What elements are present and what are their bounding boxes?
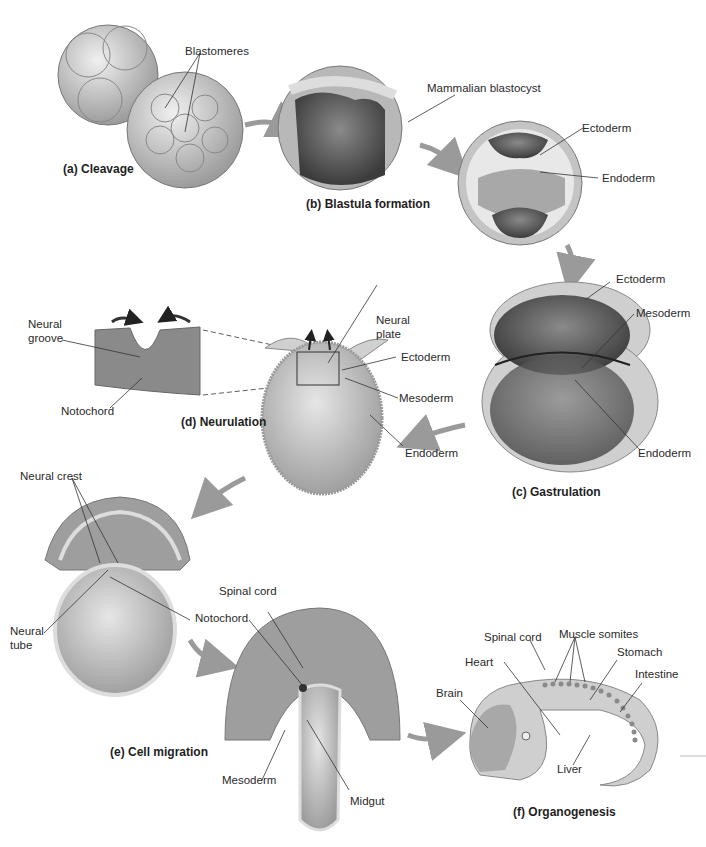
label-mammalian-blastocyst: Mammalian blastocyst (427, 82, 541, 95)
label-neural-plate-1: Neural (376, 314, 410, 327)
label-f-spinal-cord: Spinal cord (484, 631, 542, 644)
label-e-mesoderm: Mesoderm (222, 774, 276, 787)
label-neural-plate-2: plate (376, 328, 401, 341)
label-c-ectoderm: Ectoderm (616, 273, 665, 286)
label-neural-crest: Neural crest (20, 470, 82, 483)
label-e-notochord: Notochord (195, 612, 248, 625)
label-liver: Liver (557, 763, 582, 776)
blastocyst (278, 66, 402, 190)
label-e-spinal-cord: Spinal cord (219, 585, 277, 598)
label-d-ectoderm: Ectoderm (401, 351, 450, 364)
label-b-endoderm: Endoderm (602, 172, 655, 185)
label-b-ectoderm: Ectoderm (582, 122, 631, 135)
label-d-notochord: Notochord (61, 405, 114, 418)
label-muscle-somites: Muscle somites (559, 628, 638, 641)
label-c-mesoderm: Mesoderm (636, 307, 690, 320)
caption-cleavage: (a) Cleavage (63, 162, 134, 176)
caption-neurulation: (d) Neurulation (181, 415, 266, 429)
label-neural-groove-1: Neural (28, 318, 62, 331)
label-brain: Brain (436, 687, 463, 700)
label-neural-groove-2: groove (28, 332, 63, 345)
label-d-endoderm: Endoderm (405, 447, 458, 460)
gastrula-early (458, 121, 582, 245)
label-stomach: Stomach (617, 646, 662, 659)
caption-blastula-formation: (b) Blastula formation (306, 197, 430, 211)
neural-groove-block (95, 316, 200, 395)
label-neural-tube-2: tube (10, 639, 32, 652)
caption-organogenesis: (f) Organogenesis (513, 805, 616, 819)
label-heart: Heart (465, 656, 493, 669)
gastrula (482, 282, 658, 472)
label-midgut: Midgut (350, 795, 385, 808)
cell-migration-early (45, 497, 190, 695)
caption-gastrulation: (c) Gastrulation (512, 485, 601, 499)
neurula (262, 335, 388, 494)
label-intestine: Intestine (635, 668, 678, 681)
label-blastomeres: Blastomeres (185, 45, 249, 58)
caption-cell-migration: (e) Cell migration (110, 745, 208, 759)
label-c-endoderm: Endoderm (638, 447, 691, 460)
label-d-mesoderm: Mesoderm (399, 392, 453, 405)
label-neural-tube-1: Neural (10, 625, 44, 638)
